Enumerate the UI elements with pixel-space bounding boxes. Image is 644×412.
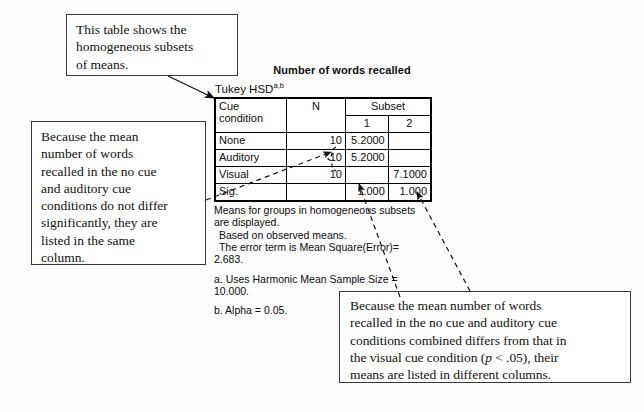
header-subset-2: 2 (388, 115, 431, 132)
row-label-sig: Sig. (215, 183, 287, 201)
callout-bottom-line: conditions combined differs from that in (350, 332, 621, 349)
row-n-sig (287, 183, 346, 201)
callout-box-bottom: Because the mean number of words recalle… (339, 291, 631, 383)
row-label-auditory: Auditory (215, 149, 287, 166)
header-cue-line2: condition (219, 112, 263, 124)
callout-bottom-line4-a: the visual cue condition ( (350, 350, 485, 365)
callout-left-line: significantly, they are (41, 214, 197, 231)
callout-bottom-p-symbol: p (485, 350, 492, 365)
callout-bottom-line: Because the mean number of words (350, 297, 621, 314)
callout-left-line: listed in the same (41, 232, 197, 249)
callout-top-line: homogeneous subsets (76, 38, 229, 55)
row-n-none: 10 (287, 132, 346, 149)
header-subset-1: 1 (346, 115, 389, 132)
row-n-visual: 10 (287, 166, 346, 183)
row-subset1-auditory: 5.2000 (346, 149, 389, 166)
callout-left-line: conditions do not differ (41, 197, 197, 214)
figure-page: Number of words recalled Tukey HSDa,b Cu… (0, 0, 644, 412)
callout-bottom-line-4: the visual cue condition (p < .05), thei… (350, 349, 621, 366)
row-subset1-sig: 1.000 (346, 183, 389, 201)
callout-box-left: Because the mean number of words recalle… (31, 121, 206, 265)
row-subset2-auditory (388, 149, 431, 166)
callout-top-line: This table shows the (76, 21, 229, 38)
table-row: Sig. 1.000 1.000 (215, 183, 431, 201)
table-note-line: The error term is Mean Square(Error)= (214, 241, 438, 253)
header-subset-group: Subset (346, 98, 432, 116)
callout-bottom-line4-b: < .05), their (492, 350, 559, 365)
row-subset1-none: 5.2000 (346, 132, 389, 149)
table-title: Number of words recalled (214, 64, 446, 76)
row-subset2-visual: 7.1000 (388, 166, 431, 183)
table-note-line: 2.683. (214, 253, 438, 265)
row-subset1-visual (346, 166, 389, 183)
row-subset2-sig: 1.000 (388, 183, 431, 201)
table-note-line: Means for groups in homogeneous subsets (214, 204, 438, 216)
table-note-line: Based on observed means. (214, 229, 438, 241)
table-row: None 10 5.2000 (215, 132, 431, 149)
callout-left-line: column. (41, 249, 197, 266)
table-subtitle-text: Tukey HSD (215, 83, 273, 95)
table-subtitle: Tukey HSDa,b (214, 81, 446, 95)
table-row: Visual 10 7.1000 (215, 166, 431, 183)
header-cue-line1: Cue (219, 100, 239, 112)
table-row: Auditory 10 5.2000 (215, 149, 431, 166)
callout-top-line: of means. (76, 56, 229, 73)
spss-output-block: Number of words recalled Tukey HSDa,b Cu… (214, 64, 446, 317)
callout-left-line: recalled in the no cue (41, 163, 197, 180)
header-cue-condition: Cuecondition (215, 98, 287, 133)
table-note-line: are displayed. (214, 216, 438, 228)
callout-left-line: and auditory cue (41, 180, 197, 197)
callout-bottom-line: means are listed in different columns. (350, 366, 621, 383)
callout-box-top: This table shows the homogeneous subsets… (66, 14, 238, 76)
table-footnote-a: a. Uses Harmonic Mean Sample Size = (214, 273, 438, 285)
callout-bottom-line: recalled in the no cue and auditory cue (350, 314, 621, 331)
homogeneous-subsets-table: Cuecondition N Subset 1 2 None 10 5.2000… (214, 97, 432, 202)
leader-line-top-callout (168, 76, 214, 98)
callout-left-line: number of words (41, 145, 197, 162)
header-n: N (287, 98, 346, 133)
callout-left-line: Because the mean (41, 128, 197, 145)
row-subset2-none (388, 132, 431, 149)
table-subtitle-superscript: a,b (273, 81, 283, 90)
row-n-auditory: 10 (287, 149, 346, 166)
table-header-row-1: Cuecondition N Subset (215, 98, 431, 116)
row-label-none: None (215, 132, 287, 149)
row-label-visual: Visual (215, 166, 287, 183)
